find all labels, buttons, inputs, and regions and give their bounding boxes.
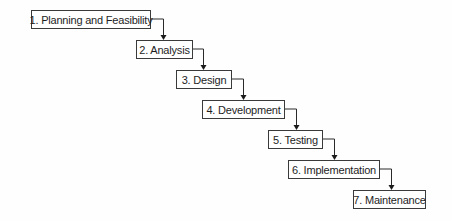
step-label: 2. Analysis bbox=[139, 44, 189, 56]
step-label: 5. Testing bbox=[273, 134, 318, 146]
connector-line bbox=[285, 109, 297, 126]
step-development: 4. Development bbox=[202, 100, 285, 119]
step-implementation: 6. Implementation bbox=[288, 160, 380, 179]
step-analysis: 2. Analysis bbox=[136, 40, 193, 59]
step-testing: 5. Testing bbox=[268, 130, 323, 149]
step-label: 4. Development bbox=[206, 104, 280, 116]
connector-line bbox=[193, 49, 204, 66]
connector-line bbox=[323, 139, 335, 156]
connector-line bbox=[232, 79, 244, 96]
step-label: 1. Planning and Feasibility bbox=[30, 14, 153, 26]
step-design: 3. Design bbox=[176, 70, 232, 89]
step-maintenance: 7. Maintenance bbox=[353, 190, 426, 209]
step-planning-feasibility: 1. Planning and Feasibility bbox=[31, 10, 151, 29]
step-label: 3. Design bbox=[182, 74, 227, 86]
connector-line bbox=[380, 169, 392, 186]
waterfall-diagram: 1. Planning and Feasibility 2. Analysis … bbox=[0, 0, 452, 221]
step-label: 6. Implementation bbox=[292, 164, 376, 176]
step-label: 7. Maintenance bbox=[353, 194, 425, 206]
